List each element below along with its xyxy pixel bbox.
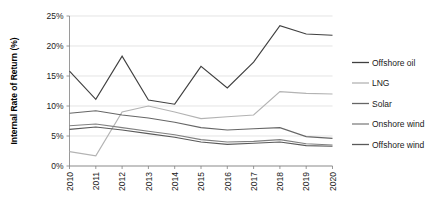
legend-label-solar: Solar	[372, 99, 392, 109]
x-tick-label: 2013	[144, 172, 154, 191]
y-axis-title: Internal Rate of Return (%)	[9, 37, 19, 144]
chart-container: 0%5%10%15%20%25% 20102011201220132014201…	[0, 0, 448, 212]
legend-label-onshore-wind: Onshore wind	[372, 119, 425, 129]
y-tick-label: 0%	[51, 161, 64, 171]
x-tick-label: 2012	[117, 172, 127, 191]
legend-label-lng: LNG	[372, 78, 389, 88]
y-tick-label: 10%	[46, 101, 63, 111]
y-tick-label: 25%	[46, 11, 63, 21]
y-axis-title-text: Internal Rate of Return (%)	[9, 37, 19, 144]
x-tick-label: 2020	[328, 172, 338, 191]
x-tick-label: 2011	[91, 172, 101, 191]
line-chart: 0%5%10%15%20%25% 20102011201220132014201…	[0, 0, 448, 212]
y-tick-label: 20%	[46, 41, 63, 51]
x-tick-label: 2014	[170, 172, 180, 191]
x-tick-label: 2016	[223, 172, 233, 191]
x-tick-label: 2010	[65, 172, 75, 191]
x-tick-label: 2018	[275, 172, 285, 191]
y-tick-label: 5%	[51, 131, 64, 141]
x-tick-label: 2017	[249, 172, 259, 191]
legend-label-offshore-oil: Offshore oil	[372, 58, 415, 68]
x-tick-label: 2015	[196, 172, 206, 191]
y-tick-label: 15%	[46, 71, 63, 81]
x-tick-label: 2019	[301, 172, 311, 191]
legend-label-offshore-wind: Offshore wind	[372, 140, 425, 150]
